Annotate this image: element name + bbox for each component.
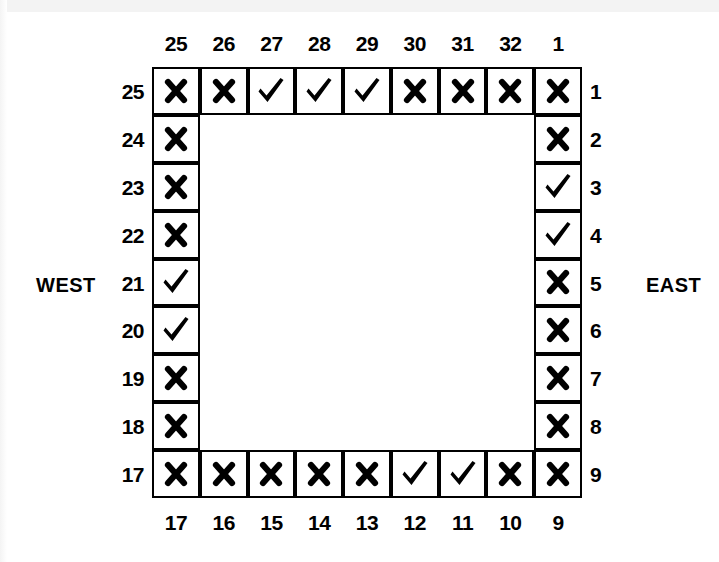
bottom-label-16: 16 bbox=[200, 512, 248, 533]
top-label-29: 29 bbox=[343, 33, 391, 54]
cross-mark-icon bbox=[161, 172, 191, 202]
bottom-label-15: 15 bbox=[248, 512, 296, 533]
grid-cell-5[interactable] bbox=[534, 259, 582, 307]
check-mark-icon bbox=[543, 220, 573, 250]
top-label-32: 32 bbox=[486, 33, 534, 54]
top-label-25: 25 bbox=[152, 33, 200, 54]
grid-cell-32[interactable] bbox=[486, 67, 534, 115]
grid-cell-15[interactable] bbox=[248, 450, 296, 498]
right-label-1: 1 bbox=[590, 81, 630, 102]
left-label-22: 22 bbox=[104, 225, 144, 246]
check-mark-icon bbox=[448, 459, 478, 489]
cross-mark-icon bbox=[543, 411, 573, 441]
west-direction-label: WEST bbox=[36, 275, 96, 295]
grid-cell-10[interactable] bbox=[486, 450, 534, 498]
cross-mark-icon bbox=[543, 363, 573, 393]
cross-mark-icon bbox=[543, 76, 573, 106]
grid-cell-29[interactable] bbox=[343, 67, 391, 115]
cross-mark-icon bbox=[161, 124, 191, 154]
left-label-17: 17 bbox=[104, 464, 144, 485]
grid-cell-28[interactable] bbox=[295, 67, 343, 115]
right-label-5: 5 bbox=[590, 273, 630, 294]
grid-cell-3[interactable] bbox=[534, 163, 582, 211]
grid-cell-19[interactable] bbox=[152, 354, 200, 402]
grid-cell-21[interactable] bbox=[152, 259, 200, 307]
cross-mark-icon bbox=[448, 76, 478, 106]
check-mark-icon bbox=[352, 76, 382, 106]
right-label-9: 9 bbox=[590, 464, 630, 485]
cross-mark-icon bbox=[161, 459, 191, 489]
grid-cell-24[interactable] bbox=[152, 115, 200, 163]
cross-mark-icon bbox=[495, 76, 525, 106]
top-label-30: 30 bbox=[391, 33, 439, 54]
grid-cell-27[interactable] bbox=[248, 67, 296, 115]
grid-cell-17[interactable] bbox=[152, 450, 200, 498]
grid-cell-25[interactable] bbox=[152, 67, 200, 115]
top-label-1: 1 bbox=[534, 33, 582, 54]
grid-cell-7[interactable] bbox=[534, 354, 582, 402]
cross-mark-icon bbox=[256, 459, 286, 489]
grid-cell-4[interactable] bbox=[534, 211, 582, 259]
east-direction-label: EAST bbox=[646, 275, 701, 295]
check-mark-icon bbox=[304, 76, 334, 106]
right-label-3: 3 bbox=[590, 177, 630, 198]
grid-cell-22[interactable] bbox=[152, 211, 200, 259]
perimeter-grid bbox=[152, 67, 582, 498]
grid-cell-14[interactable] bbox=[295, 450, 343, 498]
cross-mark-icon bbox=[495, 459, 525, 489]
right-label-8: 8 bbox=[590, 416, 630, 437]
grid-cell-2[interactable] bbox=[534, 115, 582, 163]
left-label-19: 19 bbox=[104, 368, 144, 389]
grid-cell-9[interactable] bbox=[534, 450, 582, 498]
bottom-label-11: 11 bbox=[439, 512, 487, 533]
right-label-4: 4 bbox=[590, 225, 630, 246]
cross-mark-icon bbox=[543, 124, 573, 154]
check-mark-icon bbox=[543, 172, 573, 202]
bottom-label-17: 17 bbox=[152, 512, 200, 533]
cross-mark-icon bbox=[400, 76, 430, 106]
right-label-2: 2 bbox=[590, 129, 630, 150]
cross-mark-icon bbox=[304, 459, 334, 489]
scan-artifact-top bbox=[0, 0, 719, 12]
bottom-label-9: 9 bbox=[534, 512, 582, 533]
cross-mark-icon bbox=[543, 315, 573, 345]
scan-artifact-left bbox=[0, 0, 7, 562]
check-mark-icon bbox=[400, 459, 430, 489]
left-label-20: 20 bbox=[104, 320, 144, 341]
right-label-6: 6 bbox=[590, 320, 630, 341]
grid-cell-30[interactable] bbox=[391, 67, 439, 115]
top-label-31: 31 bbox=[439, 33, 487, 54]
grid-cell-13[interactable] bbox=[343, 450, 391, 498]
grid-cell-6[interactable] bbox=[534, 306, 582, 354]
check-mark-icon bbox=[161, 267, 191, 297]
grid-cell-23[interactable] bbox=[152, 163, 200, 211]
bottom-label-12: 12 bbox=[391, 512, 439, 533]
left-label-25: 25 bbox=[104, 81, 144, 102]
cross-mark-icon bbox=[543, 267, 573, 297]
cross-mark-icon bbox=[161, 363, 191, 393]
cross-mark-icon bbox=[209, 76, 239, 106]
cross-mark-icon bbox=[209, 459, 239, 489]
bottom-label-14: 14 bbox=[295, 512, 343, 533]
left-label-21: 21 bbox=[104, 273, 144, 294]
grid-cell-18[interactable] bbox=[152, 402, 200, 450]
bottom-label-10: 10 bbox=[486, 512, 534, 533]
bottom-label-13: 13 bbox=[343, 512, 391, 533]
left-label-18: 18 bbox=[104, 416, 144, 437]
cross-mark-icon bbox=[543, 459, 573, 489]
grid-cell-12[interactable] bbox=[391, 450, 439, 498]
check-mark-icon bbox=[161, 315, 191, 345]
grid-cell-20[interactable] bbox=[152, 306, 200, 354]
grid-cell-1[interactable] bbox=[534, 67, 582, 115]
top-label-26: 26 bbox=[200, 33, 248, 54]
top-label-28: 28 bbox=[295, 33, 343, 54]
top-label-27: 27 bbox=[248, 33, 296, 54]
left-label-24: 24 bbox=[104, 129, 144, 150]
grid-cell-11[interactable] bbox=[439, 450, 487, 498]
grid-cell-26[interactable] bbox=[200, 67, 248, 115]
right-label-7: 7 bbox=[590, 368, 630, 389]
check-mark-icon bbox=[256, 76, 286, 106]
grid-cell-8[interactable] bbox=[534, 402, 582, 450]
grid-cell-31[interactable] bbox=[439, 67, 487, 115]
grid-cell-16[interactable] bbox=[200, 450, 248, 498]
